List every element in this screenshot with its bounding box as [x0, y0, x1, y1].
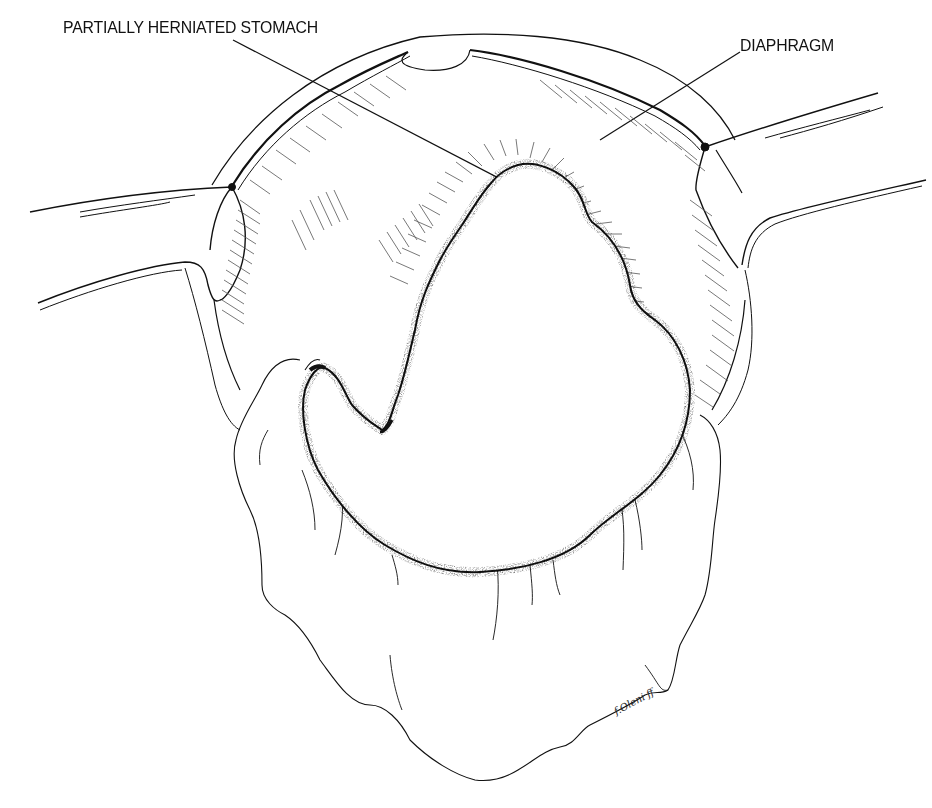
label-diaphragm: DIAPHRAGM — [740, 37, 834, 54]
herniated-stomach-illustration: PARTIALLY HERNIATED STOMACH DIAPHRAGM f.… — [0, 0, 932, 808]
label-partially-herniated-stomach: PARTIALLY HERNIATED STOMACH — [63, 19, 318, 36]
diaphragm-rim — [229, 50, 710, 191]
stomach — [303, 164, 690, 572]
left-retractor — [30, 187, 245, 430]
anatomy-drawing — [0, 0, 932, 808]
diaphragm-leader-line — [600, 52, 740, 140]
right-retractor — [696, 93, 926, 425]
stomach-leader-line — [233, 40, 512, 185]
